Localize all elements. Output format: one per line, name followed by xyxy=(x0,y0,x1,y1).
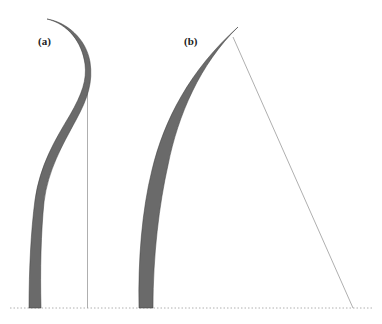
diagram-canvas xyxy=(0,0,382,324)
panel-b-inclined-line xyxy=(233,37,353,308)
panel-b-blade xyxy=(139,27,238,308)
figure: (a) (b) xyxy=(0,0,382,324)
panel-a-blade xyxy=(29,19,91,308)
panel-a-label: (a) xyxy=(38,36,51,47)
panel-b-label: (b) xyxy=(184,36,197,47)
